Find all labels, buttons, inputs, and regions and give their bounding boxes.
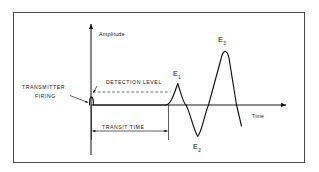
transmitter-firing-leader-line [70,96,88,103]
echo-label-e2: E 2 [193,142,201,153]
detection-level-group: DETECTION LEVEL [93,79,171,93]
x-axis-label: Time [252,113,264,119]
echo-2-label-sub: 2 [198,148,201,153]
detection-level-label: DETECTION LEVEL [106,79,162,85]
transmitter-firing-label-line1: TRANSMITTER [22,84,65,90]
echo-label-e1: E 1 [173,69,181,80]
y-axis-label: Amplitude [99,31,125,37]
transmitter-firing-group: TRANSMITTER FIRING [22,84,88,103]
echo-3-label-sub: 3 [223,41,226,46]
y-axis-group: Amplitude [91,24,125,155]
waveform-figure: Amplitude Time DETECTION LEVEL [0,0,319,172]
echo-1-label-sub: 1 [178,75,181,80]
echo-3-curve [209,51,237,105]
echo-tail-curve [237,105,242,126]
transmitter-firing-label-line2: FIRING [35,93,56,99]
echo-label-e3: E 3 [218,35,226,46]
transit-time-label: TRANSIT TIME [102,124,144,130]
detection-level-pointer [94,86,98,93]
figure-root: Amplitude Time DETECTION LEVEL [0,0,319,172]
transit-time-group: TRANSIT TIME [92,105,169,140]
echo-1-curve [166,84,186,106]
echo-2-curve [186,105,209,137]
